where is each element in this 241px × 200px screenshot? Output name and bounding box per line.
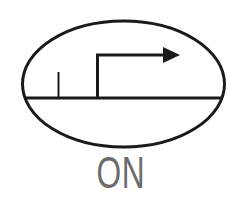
arrow-right-icon — [163, 47, 180, 63]
step-signal-line — [98, 55, 167, 98]
ellipse-outline — [23, 21, 225, 147]
on-label: ON — [34, 150, 208, 196]
